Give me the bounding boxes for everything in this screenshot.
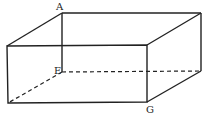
edge-bottom-right [147,71,201,102]
hidden-edge-E-back-bottom [62,71,201,72]
edge-top-left [7,13,62,46]
hidden-edge-E-front-bottom [8,72,62,103]
label-G: G [146,104,154,115]
cuboid-diagram: A E G [0,0,205,116]
front-face [7,45,147,103]
edge-top-right [147,13,201,45]
label-A: A [55,1,64,12]
label-E: E [54,65,61,76]
